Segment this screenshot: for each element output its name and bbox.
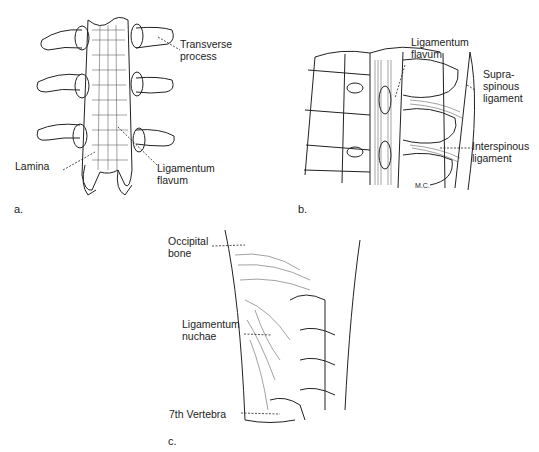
label-ligamentum-flavum-a: Ligamentum flavum bbox=[157, 162, 215, 186]
label-supraspinous-ligament: Supra- spinous ligament bbox=[483, 68, 523, 104]
leader-ligamentum-nuchae bbox=[244, 334, 272, 335]
label-7th-vertebra: 7th Vertebra bbox=[169, 408, 226, 420]
leader-7th-vertebra bbox=[241, 413, 280, 414]
panel-caption-c: c. bbox=[168, 435, 177, 447]
label-transverse-process: Transverse process bbox=[180, 38, 232, 62]
label-ligamentum-flavum-b: Ligamentum flavum bbox=[411, 36, 469, 60]
panel-a-drawing bbox=[37, 17, 174, 195]
panel-c-drawing bbox=[225, 230, 360, 423]
artist-signature: M.C. bbox=[415, 180, 430, 192]
panel-caption-a: a. bbox=[14, 203, 23, 215]
label-lamina: Lamina bbox=[15, 160, 49, 172]
leader-ligamentum-flavum-b bbox=[395, 65, 405, 98]
panel-caption-b: b. bbox=[298, 203, 307, 215]
label-interspinous-ligament: Interspinous ligament bbox=[472, 140, 529, 164]
leader-lamina bbox=[63, 152, 95, 170]
panel-b-drawing bbox=[304, 47, 475, 190]
label-ligamentum-nuchae: Ligamentum nuchae bbox=[182, 318, 240, 342]
illustration-canvas bbox=[0, 0, 539, 452]
label-occipital-bone: Occipital bone bbox=[168, 235, 208, 259]
